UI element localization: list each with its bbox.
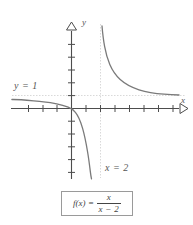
formula-fraction: x x − 2 bbox=[97, 193, 122, 215]
horizontal-asymptote-label: y = 1 bbox=[14, 81, 38, 91]
x-axis-label: x bbox=[181, 96, 185, 105]
formula-numerator: x bbox=[105, 193, 113, 203]
x-axis-arrowhead-icon bbox=[180, 104, 188, 114]
vertical-asymptote-label: x = 2 bbox=[105, 163, 129, 173]
curve-left-branch bbox=[12, 99, 92, 178]
function-formula: f(x)= x x − 2 bbox=[73, 193, 121, 215]
y-axis-arrowhead-icon bbox=[67, 22, 77, 30]
formula-denominator: x − 2 bbox=[97, 204, 122, 214]
formula-equals: = bbox=[88, 199, 93, 208]
function-graph-figure: y x y = 1 x = 2 f(x)= x x − 2 bbox=[0, 0, 193, 225]
curve-right-branch bbox=[102, 26, 179, 95]
y-axis-label: y bbox=[82, 18, 86, 27]
formula-lhs: f(x) bbox=[73, 199, 86, 208]
formula-box: f(x)= x x − 2 bbox=[61, 191, 133, 216]
